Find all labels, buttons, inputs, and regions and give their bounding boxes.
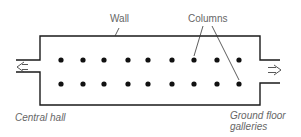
column-dot: [236, 57, 241, 62]
column-dot: [145, 81, 150, 86]
column-dot: [101, 57, 106, 62]
column-dot: [236, 81, 241, 86]
wall-label: Wall: [110, 13, 129, 24]
column-dot: [58, 81, 63, 86]
column-dot: [80, 57, 85, 62]
exit-arrow-right-icon: [268, 65, 281, 75]
bottom-wall: [16, 72, 280, 105]
column-dot: [125, 57, 130, 62]
column-dot: [191, 57, 196, 62]
columns-label: Columns: [188, 13, 227, 24]
column-dot: [169, 57, 174, 62]
column-dot: [145, 57, 150, 62]
central-hall-label: Central hall: [15, 112, 66, 123]
ground-floor-label-line2: galleries: [230, 121, 267, 132]
floor-plan-diagram: Wall Columns Central hall Ground floor g…: [0, 0, 301, 137]
wall-outline: [16, 36, 280, 105]
column-dot: [58, 57, 63, 62]
column-dot: [169, 81, 174, 86]
column-dot: [80, 81, 85, 86]
column-dot: [125, 81, 130, 86]
column-dot: [101, 81, 106, 86]
wall-leader-line: [115, 28, 119, 36]
column-dot: [191, 81, 196, 86]
columns-leader-line-1: [194, 26, 203, 56]
column-dot: [214, 81, 219, 86]
top-wall: [16, 36, 280, 60]
ground-floor-label-line1: Ground floor: [230, 110, 286, 121]
columns-grid: [58, 57, 241, 86]
entry-arrow-left-icon: [17, 62, 28, 72]
columns-leader-line-2: [212, 26, 239, 80]
column-dot: [214, 57, 219, 62]
